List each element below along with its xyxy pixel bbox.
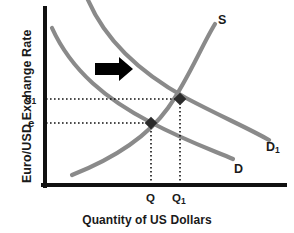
curve-label-shifted-demand: D1 [266, 141, 280, 154]
demand-shift-arrow-icon [95, 57, 133, 81]
curve-d1-base: D [266, 140, 275, 154]
x-tick-label-q: Q [146, 193, 155, 205]
y-tick-label-e: e [28, 118, 34, 130]
y-tick-label-e1: e1 [25, 93, 36, 105]
curve-d1-subscript: 1 [275, 145, 280, 155]
x-tick-label-q1: Q1 [172, 193, 186, 205]
x-tick-q1-subscript: 1 [181, 196, 186, 206]
curve-label-demand: D [234, 163, 243, 176]
y-axis-title: Euro/USD Exchange Rate [21, 11, 34, 201]
x-axis-title: Quantity of US Dollars [0, 214, 294, 226]
curve-label-supply: S [218, 14, 226, 27]
demand-curve [52, 28, 233, 159]
x-tick-q1-base: Q [172, 192, 181, 204]
y-tick-e1-subscript: 1 [31, 96, 36, 106]
supply-demand-chart: Euro/USD Exchange Rate Quantity of US Do… [0, 0, 294, 233]
